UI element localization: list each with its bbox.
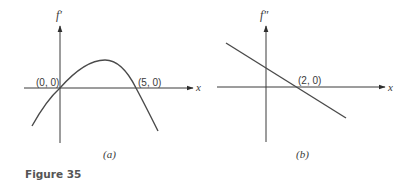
point-label-5-0: (5, 0) — [138, 77, 161, 88]
panel-label-a: (a) — [103, 148, 116, 161]
f-prime-curve — [32, 60, 158, 131]
point-label-origin: (0, 0) — [36, 77, 59, 88]
figure-caption: Figure 35 — [25, 168, 81, 180]
point-label-2-0: (2, 0) — [298, 75, 321, 86]
panel-label-b: (b) — [296, 148, 309, 161]
panel-b: f″ x (2, 0) (b) — [217, 8, 393, 161]
f-double-prime-line — [226, 43, 346, 118]
panel-a: f′ x (0, 0) (5, 0) (a) — [24, 8, 201, 161]
x-axis-label-b: x — [387, 81, 393, 93]
y-axis-label-a: f′ — [56, 8, 62, 22]
y-axis-label-b: f″ — [260, 8, 269, 22]
figure-canvas: f′ x (0, 0) (5, 0) (a) f″ x (2, 0) (b) F… — [0, 0, 413, 185]
x-axis-label-a: x — [195, 81, 201, 93]
